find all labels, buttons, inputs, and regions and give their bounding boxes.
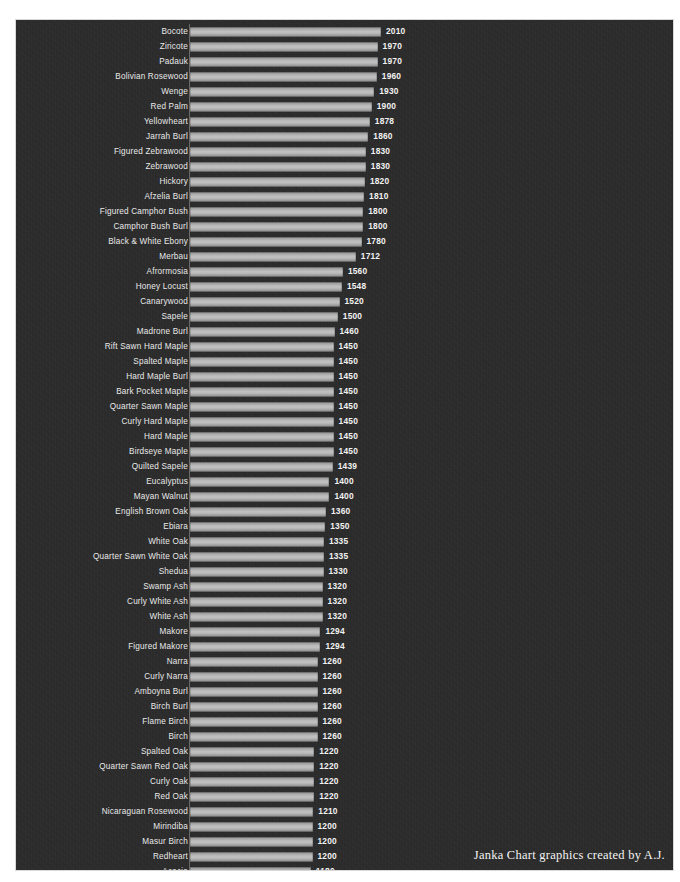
bar-category-label: Quarter Sawn White Oak bbox=[16, 549, 188, 564]
bar bbox=[190, 237, 362, 247]
bar bbox=[190, 837, 313, 847]
bar-value-label: 1878 bbox=[375, 114, 394, 129]
bar-category-label: Mayan Walnut bbox=[16, 489, 188, 504]
bar-row: Figured Zebrawood1830 bbox=[16, 144, 673, 159]
bar-value-label: 1830 bbox=[371, 159, 390, 174]
bar-row: Sapele1500 bbox=[16, 309, 673, 324]
bar bbox=[190, 567, 324, 577]
bar-category-label: Afrormosia bbox=[16, 264, 188, 279]
bar-category-label: Nicaraguan Rosewood bbox=[16, 804, 188, 819]
bar-category-label: Red Oak bbox=[16, 789, 188, 804]
bar-category-label: Honey Locust bbox=[16, 279, 188, 294]
bar-category-label: Ebiara bbox=[16, 519, 188, 534]
bar-value-label: 1210 bbox=[318, 804, 337, 819]
bar bbox=[190, 42, 378, 52]
bar-category-label: Jarrah Burl bbox=[16, 129, 188, 144]
bar-row: Curly Hard Maple1450 bbox=[16, 414, 673, 429]
bar-value-label: 1260 bbox=[323, 714, 342, 729]
bar-category-label: Figured Camphor Bush bbox=[16, 204, 188, 219]
bar bbox=[190, 342, 334, 352]
bar-row: Bark Pocket Maple1450 bbox=[16, 384, 673, 399]
bar-value-label: 1500 bbox=[343, 309, 362, 324]
bar-row: Quarter Sawn Maple1450 bbox=[16, 399, 673, 414]
bar bbox=[190, 87, 374, 97]
bar-category-label: Yellowheart bbox=[16, 114, 188, 129]
bar-category-label: Eucalyptus bbox=[16, 474, 188, 489]
bar-category-label: Black & White Ebony bbox=[16, 234, 188, 249]
bar-category-label: Redheart bbox=[16, 849, 188, 864]
bar-row: Curly White Ash1320 bbox=[16, 594, 673, 609]
bar-category-label: Birch bbox=[16, 729, 188, 744]
bar bbox=[190, 462, 333, 472]
bar-row: Quarter Sawn White Oak1335 bbox=[16, 549, 673, 564]
bar-value-label: 1200 bbox=[318, 834, 337, 849]
bar bbox=[190, 762, 314, 772]
bar-value-label: 1320 bbox=[328, 579, 347, 594]
bar bbox=[190, 447, 334, 457]
bar-value-label: 1220 bbox=[319, 744, 338, 759]
bar-value-label: 1450 bbox=[339, 414, 358, 429]
bar bbox=[190, 387, 334, 397]
bar-category-label: Figured Makore bbox=[16, 639, 188, 654]
bar-value-label: 1260 bbox=[323, 669, 342, 684]
bar-category-label: Shedua bbox=[16, 564, 188, 579]
bar-row: Shedua1330 bbox=[16, 564, 673, 579]
bar-category-label: Flame Birch bbox=[16, 714, 188, 729]
bar-value-label: 1970 bbox=[383, 39, 402, 54]
bar-value-label: 1820 bbox=[370, 174, 389, 189]
bar-row: Curly Narra1260 bbox=[16, 669, 673, 684]
bar-value-label: 1294 bbox=[325, 624, 344, 639]
bar-category-label: Bark Pocket Maple bbox=[16, 384, 188, 399]
bar bbox=[190, 297, 340, 307]
bar-row: Red Palm1900 bbox=[16, 99, 673, 114]
bar-value-label: 1180 bbox=[316, 864, 335, 870]
bar-category-label: Quarter Sawn Red Oak bbox=[16, 759, 188, 774]
bar-row: Swamp Ash1320 bbox=[16, 579, 673, 594]
bar-category-label: Quarter Sawn Maple bbox=[16, 399, 188, 414]
bar bbox=[190, 162, 366, 172]
bar-value-label: 1260 bbox=[323, 699, 342, 714]
bar-category-label: Padauk bbox=[16, 54, 188, 69]
bar-row: White Ash1320 bbox=[16, 609, 673, 624]
bar bbox=[190, 147, 366, 157]
bar bbox=[190, 522, 325, 532]
bar-row: Madrone Burl1460 bbox=[16, 324, 673, 339]
bar-category-label: Rift Sawn Hard Maple bbox=[16, 339, 188, 354]
bar-row: Spalted Maple1450 bbox=[16, 354, 673, 369]
bar-category-label: Canarywood bbox=[16, 294, 188, 309]
bar-row: Bocote2010 bbox=[16, 24, 673, 39]
bar-category-label: Acacia bbox=[16, 864, 188, 870]
bar-row: Black & White Ebony1780 bbox=[16, 234, 673, 249]
bar-category-label: Birdseye Maple bbox=[16, 444, 188, 459]
bar-category-label: Figured Zebrawood bbox=[16, 144, 188, 159]
bar bbox=[190, 312, 338, 322]
bar-row: Acacia1180 bbox=[16, 864, 673, 870]
bar-row: Curly Oak1220 bbox=[16, 774, 673, 789]
bar bbox=[190, 582, 323, 592]
bar-row: Bolivian Rosewood1960 bbox=[16, 69, 673, 84]
bar-value-label: 1260 bbox=[323, 729, 342, 744]
bar-row: Makore1294 bbox=[16, 624, 673, 639]
bar bbox=[190, 612, 323, 622]
bar-category-label: Curly Narra bbox=[16, 669, 188, 684]
bar-value-label: 1520 bbox=[345, 294, 364, 309]
bar-category-label: Curly Oak bbox=[16, 774, 188, 789]
bar-row: Hickory1820 bbox=[16, 174, 673, 189]
bar bbox=[190, 327, 335, 337]
bar-value-label: 1439 bbox=[338, 459, 357, 474]
bar-category-label: Merbau bbox=[16, 249, 188, 264]
bar bbox=[190, 72, 377, 82]
bar-category-label: Swamp Ash bbox=[16, 579, 188, 594]
bar-category-label: English Brown Oak bbox=[16, 504, 188, 519]
bar-category-label: Sapele bbox=[16, 309, 188, 324]
bar-value-label: 1220 bbox=[319, 759, 338, 774]
bar-value-label: 1560 bbox=[348, 264, 367, 279]
bar-value-label: 1335 bbox=[329, 534, 348, 549]
bar bbox=[190, 777, 314, 787]
bar-category-label: Hard Maple Burl bbox=[16, 369, 188, 384]
bar bbox=[190, 597, 323, 607]
chart-credit: Janka Chart graphics created by A.J. bbox=[474, 848, 665, 863]
bar-row: Spalted Oak1220 bbox=[16, 744, 673, 759]
bar bbox=[190, 627, 320, 637]
bar-category-label: White Oak bbox=[16, 534, 188, 549]
